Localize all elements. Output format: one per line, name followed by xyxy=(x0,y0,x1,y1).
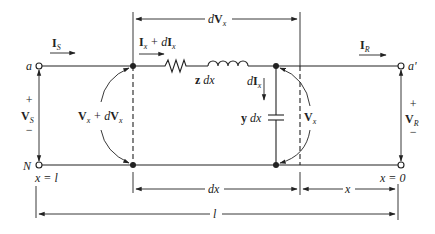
svg-text:y dx: y dx xyxy=(241,111,262,125)
transmission-line-diagram: dVx IS Ix + dIx IR z dx dIx y dx Vx + dV… xyxy=(0,0,435,234)
inductor-icon xyxy=(208,61,248,66)
voltage-right-arc-bottom xyxy=(280,130,310,163)
voltage-receiving-minus: − xyxy=(409,125,417,139)
svg-text:Vx: Vx xyxy=(304,110,317,126)
resistor-icon xyxy=(161,60,208,72)
current-source-sub: S xyxy=(57,43,61,52)
terminal-a xyxy=(36,63,42,69)
svg-text:z dx: z dx xyxy=(195,73,215,87)
top-conductor xyxy=(42,60,398,72)
x-equals-l-label: x = l xyxy=(34,171,58,185)
current-x-sub2: x xyxy=(171,42,176,51)
x-dimension-label: x xyxy=(344,182,351,196)
x-equals-0-label: x = 0 xyxy=(379,171,405,185)
svg-text:IR: IR xyxy=(360,38,370,54)
l-dimension-label: l xyxy=(213,207,217,221)
svg-text:IS: IS xyxy=(52,36,61,52)
terminal-receiving-bottom xyxy=(398,162,404,168)
voltage-x-dvx-plus: + d xyxy=(90,109,111,123)
voltage-source-label: V xyxy=(21,109,30,123)
node-a-prime-label: a' xyxy=(408,59,417,73)
current-x-plus: + d xyxy=(147,35,168,49)
voltage-receiving-label: V xyxy=(405,112,414,126)
shunt-capacitor xyxy=(268,66,284,165)
node-N-label: N xyxy=(22,159,32,173)
voltage-x-label: V xyxy=(304,110,313,124)
terminal-a-prime xyxy=(398,63,404,69)
svg-text:Ix + dIx: Ix + dIx xyxy=(139,35,176,51)
voltage-x-dvx-label: V xyxy=(78,109,87,123)
voltage-left-arc-bottom xyxy=(101,130,129,163)
node-a-label: a xyxy=(26,59,32,73)
voltage-source-minus: − xyxy=(25,123,33,137)
series-impedance-dx: dx xyxy=(200,73,215,87)
terminal-N xyxy=(36,162,42,168)
voltage-receiving-plus: + xyxy=(409,97,417,111)
voltage-x-sub: x xyxy=(312,117,317,126)
voltage-left-arc-top xyxy=(101,68,129,102)
voltage-source-plus: + xyxy=(25,93,33,107)
svg-text:dVx: dVx xyxy=(208,12,227,28)
svg-text:dIx: dIx xyxy=(247,74,262,90)
current-receiving-sub: R xyxy=(364,45,370,54)
svg-text:Vx + dVx: Vx + dVx xyxy=(78,109,123,125)
voltage-right-arc-top xyxy=(280,68,310,106)
dx-dimension-label: dx xyxy=(208,182,220,196)
shunt-admittance-dx: dx xyxy=(247,111,262,125)
